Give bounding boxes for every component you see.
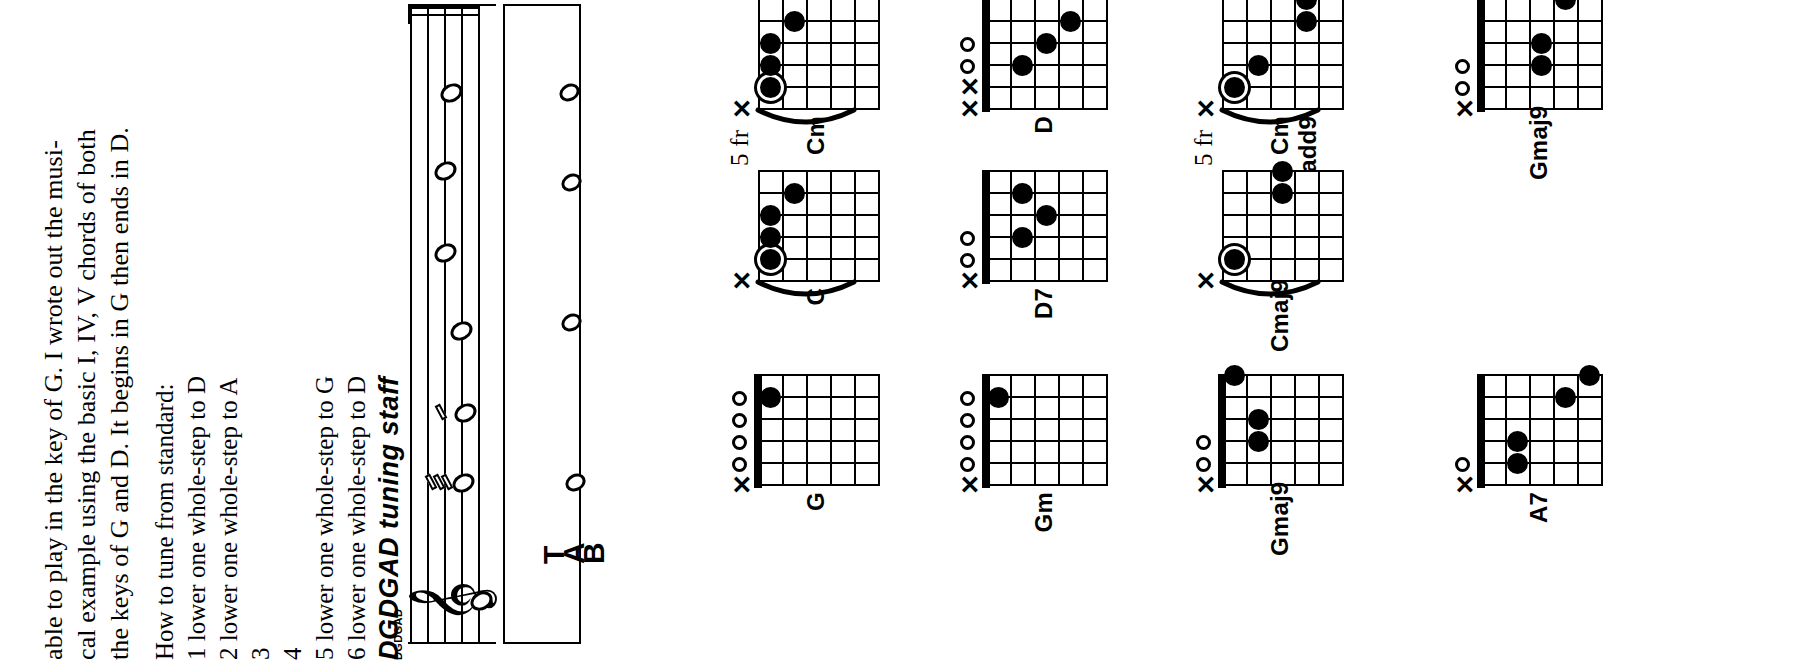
open-string-o-icon <box>1455 81 1470 96</box>
fret-line <box>878 374 880 486</box>
string-line <box>986 462 1106 464</box>
finger-dot <box>1248 409 1269 430</box>
notation-subtitle: DGDGAD <box>392 609 404 660</box>
finger-dot <box>1224 365 1245 386</box>
chord-diagram-gmaj9[interactable]: Gmaj9✕ <box>1188 326 1368 556</box>
finger-dot <box>760 55 781 76</box>
fret-line <box>1058 170 1060 282</box>
muted-string-x-icon: ✕ <box>1453 98 1478 119</box>
string-line <box>986 418 1106 420</box>
string-line <box>1481 462 1601 464</box>
open-string-o-icon <box>732 413 747 428</box>
finger-dot <box>1012 227 1033 248</box>
fret-line <box>1577 374 1579 486</box>
open-string-o-icon <box>1196 435 1211 450</box>
root-note-dot <box>1224 249 1245 270</box>
string-line <box>1222 396 1342 398</box>
paragraph-line-3: the keys of G and D. It begins in G then… <box>106 127 133 660</box>
string-line <box>986 258 1106 260</box>
finger-dot <box>760 33 781 54</box>
string-line <box>986 64 1106 66</box>
fret-line <box>1082 170 1084 282</box>
fret-line <box>1058 374 1060 486</box>
chord-diagram-d[interactable]: D✕✕ <box>952 0 1132 180</box>
finger-dot <box>1012 55 1033 76</box>
chord-name: D <box>1030 116 1058 180</box>
string-line <box>986 374 1106 376</box>
paragraph-line-2: cal example using the basic I, IV, V cho… <box>73 129 100 660</box>
finger-dot <box>988 387 1009 408</box>
finger-dot <box>1531 55 1552 76</box>
string-line <box>758 374 878 376</box>
finger-dot <box>760 387 781 408</box>
fret-line <box>1246 374 1248 486</box>
tuning-heading: How to tune from standard: <box>152 384 178 660</box>
paragraph-line-1: able to play in the key of G. I wrote ou… <box>40 140 67 660</box>
finger-dot <box>1531 33 1552 54</box>
string-line <box>1222 440 1342 442</box>
chord-diagram-gmaj9[interactable]: Gmaj9✕ <box>1447 0 1627 180</box>
muted-string-x-icon: ✕ <box>958 474 983 495</box>
chord-diagram-gm[interactable]: Gm✕ <box>952 326 1132 556</box>
muted-string-x-icon: ✕ <box>958 270 983 291</box>
finger-dot <box>1012 183 1033 204</box>
chord-diagram-cm[interactable]: Cm5 fr✕ <box>724 0 904 180</box>
finger-dot <box>1507 453 1528 474</box>
tuning-step-4: 4 <box>280 648 306 661</box>
fret-line <box>1553 374 1555 486</box>
string-line <box>758 418 878 420</box>
chord-diagram-g[interactable]: G✕ <box>724 326 904 556</box>
finger-dot <box>1296 11 1317 32</box>
string-line <box>986 192 1106 194</box>
open-string-o-icon <box>1196 457 1211 472</box>
string-line <box>758 462 878 464</box>
tuning-step-2: 2 lower one whole-step to A <box>216 377 242 660</box>
string-line <box>1481 440 1601 442</box>
fret-line <box>1082 0 1084 110</box>
fretboard-grid <box>986 0 1106 110</box>
string-line <box>1222 462 1342 464</box>
fret-line <box>1106 0 1108 110</box>
open-string-o-icon <box>960 253 975 268</box>
fret-line <box>1082 374 1084 486</box>
nut <box>1477 0 1485 112</box>
chord-name: Cm <box>802 116 830 180</box>
root-note-dot <box>760 77 781 98</box>
string-line <box>986 20 1106 22</box>
tuning-step-6: 6 lower one whole-step to D <box>344 376 370 660</box>
open-string-o-icon <box>732 435 747 450</box>
muted-string-x-icon: ✕ <box>730 474 755 495</box>
finger-dot <box>1036 33 1057 54</box>
fret-line <box>1106 170 1108 282</box>
open-string-o-icon <box>960 37 975 52</box>
fret-line <box>782 374 784 486</box>
open-string-o-icon <box>732 391 747 406</box>
chord-name: Cmaj9 <box>1266 288 1294 352</box>
chord-diagram-cm-add9[interactable]: Cm add95 fr✕ <box>1188 0 1368 180</box>
fret-line <box>854 374 856 486</box>
nut <box>982 170 990 284</box>
finger-dot <box>1579 365 1600 386</box>
string-line <box>1481 484 1601 486</box>
string-line <box>986 440 1106 442</box>
fret-line <box>1529 0 1531 110</box>
tuning-step-1: 1 lower one whole-step to D <box>184 376 210 660</box>
finger-dot <box>784 183 805 204</box>
fret-line <box>1034 170 1036 282</box>
chord-diagram-a7[interactable]: A7✕ <box>1447 326 1627 556</box>
open-string-o-icon <box>960 391 975 406</box>
root-note-dot <box>1224 77 1245 98</box>
fret-line <box>1106 374 1108 486</box>
string-line <box>758 440 878 442</box>
chord-name: Cm add9 <box>1266 116 1322 180</box>
string-line <box>1481 108 1601 110</box>
fret-line <box>1270 374 1272 486</box>
string-line <box>986 108 1106 110</box>
finger-dot <box>1272 183 1293 204</box>
page-canvas: able to play in the key of G. I wrote ou… <box>0 0 1798 668</box>
open-string-o-icon <box>960 413 975 428</box>
string-line <box>1222 418 1342 420</box>
fret-line <box>1318 374 1320 486</box>
fret-line <box>1601 374 1603 486</box>
string-line <box>986 280 1106 282</box>
